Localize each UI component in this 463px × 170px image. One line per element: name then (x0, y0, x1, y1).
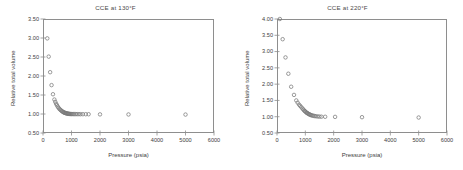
data-point (184, 113, 188, 117)
x-tick-label: 4000 (141, 137, 173, 143)
data-point (47, 55, 51, 59)
data-point (98, 113, 102, 117)
data-point (281, 37, 285, 41)
y-tick-label: 2.00 (1, 73, 39, 79)
data-point (127, 113, 131, 117)
y-tick-label: 2.50 (235, 65, 273, 71)
x-tick-label: 3000 (346, 137, 378, 143)
figure-sheet: CCE at 130°F 0.501.001.502.002.503.003.5… (0, 0, 463, 170)
x-tick-label: 1000 (56, 137, 88, 143)
y-axis-title: Relative total volume (244, 50, 250, 106)
data-point (289, 85, 293, 89)
scatter-layer (0, 0, 231, 170)
y-tick-label: 0.50 (1, 130, 39, 136)
data-point (292, 93, 296, 97)
y-tick-label: 1.50 (1, 92, 39, 98)
x-tick-label: 1000 (289, 137, 321, 143)
data-point (333, 115, 337, 119)
x-tick-label: 6000 (198, 137, 230, 143)
y-tick-label: 3.00 (235, 48, 273, 54)
y-tick-label: 4.00 (235, 16, 273, 22)
data-point (53, 98, 57, 102)
data-point (323, 115, 327, 119)
y-tick-label: 2.50 (1, 54, 39, 60)
y-tick-label: 2.00 (235, 81, 273, 87)
data-point (287, 72, 291, 76)
data-point (51, 92, 55, 96)
y-tick-label: 3.50 (1, 16, 39, 22)
x-axis-title: Pressure (psia) (43, 152, 214, 158)
y-tick-label: 1.50 (235, 97, 273, 103)
y-tick-label: 0.50 (235, 130, 273, 136)
data-point (417, 116, 421, 120)
x-tick-label: 2000 (318, 137, 350, 143)
y-tick-label: 3.50 (235, 32, 273, 38)
y-tick-label: 1.00 (235, 114, 273, 120)
y-tick-label: 1.00 (1, 111, 39, 117)
data-point (284, 56, 288, 60)
y-axis-title: Relative total volume (10, 50, 16, 106)
x-tick-label: 0 (27, 137, 59, 143)
x-tick-label: 4000 (374, 137, 406, 143)
x-tick-label: 2000 (84, 137, 116, 143)
chart-panel-right: CCE at 220°F 0.501.001.502.002.503.003.5… (232, 0, 463, 170)
data-point (46, 37, 50, 41)
x-tick-label: 0 (261, 137, 293, 143)
x-tick-label: 6000 (431, 137, 463, 143)
chart-panel-left: CCE at 130°F 0.501.001.502.002.503.003.5… (0, 0, 231, 170)
x-axis-title: Pressure (psia) (277, 152, 447, 158)
y-tick-label: 3.00 (1, 35, 39, 41)
x-tick-label: 3000 (113, 137, 145, 143)
x-tick-label: 5000 (170, 137, 202, 143)
data-point (360, 115, 364, 119)
data-point (50, 83, 54, 87)
data-point (48, 70, 52, 74)
x-tick-label: 5000 (403, 137, 435, 143)
